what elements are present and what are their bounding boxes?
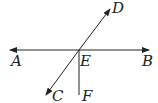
diagram-canvas: A B C D E F — [0, 0, 158, 103]
label-A: A — [9, 52, 22, 70]
geometry-diagram: A B C D E F — [0, 0, 158, 103]
label-E: E — [79, 52, 91, 70]
label-C: C — [52, 87, 64, 103]
label-B: B — [141, 52, 153, 70]
label-F: F — [81, 87, 93, 103]
line-ED — [79, 9, 110, 50]
label-D: D — [111, 0, 124, 17]
